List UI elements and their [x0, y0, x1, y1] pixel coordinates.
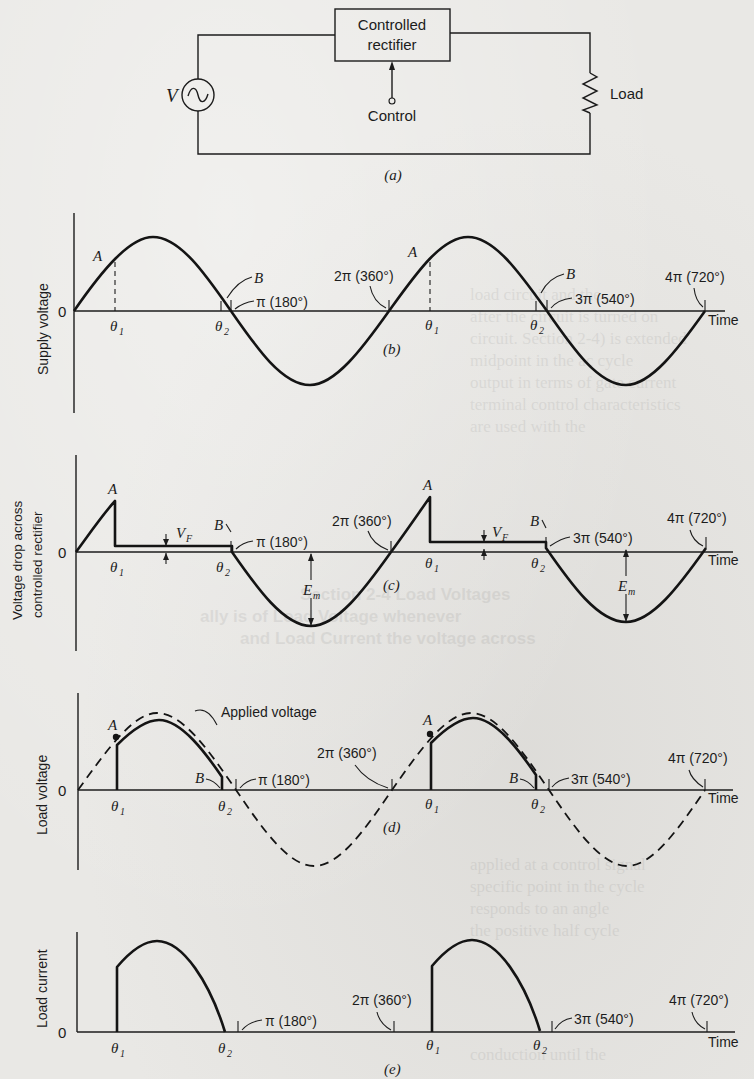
svg-text:B: B: [530, 513, 539, 529]
control-arrow-icon: [389, 61, 395, 104]
svg-text:θ: θ: [425, 796, 433, 812]
svg-text:3π (540°): 3π (540°): [575, 291, 635, 307]
svg-text:0: 0: [58, 1024, 66, 1041]
ac-source-icon: [182, 79, 214, 111]
y-axis-label: Load voltage: [34, 755, 50, 835]
svg-text:the positive half cycle: the positive half cycle: [470, 921, 620, 940]
svg-text:2: 2: [227, 806, 232, 817]
svg-text:output in terms of gate curren: output in terms of gate current: [470, 373, 677, 392]
svg-text:3π (540°): 3π (540°): [573, 530, 633, 546]
svg-text:π (180°): π (180°): [265, 1013, 317, 1029]
svg-text:E: E: [617, 578, 627, 594]
svg-text:Time: Time: [708, 790, 739, 806]
svg-text:A: A: [107, 717, 118, 733]
svg-text:π (180°): π (180°): [256, 534, 308, 550]
svg-text:0: 0: [58, 303, 66, 320]
svg-text:2: 2: [225, 567, 230, 578]
show-through-text: load circuit and the after the circuit i…: [200, 285, 687, 1064]
box-label-line2: rectifier: [367, 36, 416, 53]
svg-text:2π (360°): 2π (360°): [334, 268, 394, 284]
wire-top-left: [198, 35, 335, 79]
panel-e-load-current: 0 Load current θ 1 θ 2 θ 1 θ 2 π (180°) …: [34, 932, 739, 1078]
caption-a: (a): [384, 167, 402, 184]
svg-text:1: 1: [434, 563, 439, 574]
svg-text:2: 2: [540, 804, 545, 815]
svg-text:θ: θ: [216, 559, 224, 575]
svg-text:θ: θ: [531, 796, 539, 812]
svg-text:2π (360°): 2π (360°): [332, 513, 392, 529]
svg-text:B: B: [254, 270, 263, 286]
svg-text:0: 0: [58, 544, 66, 561]
svg-text:4π (720°): 4π (720°): [667, 510, 727, 526]
svg-text:A: A: [422, 712, 433, 728]
svg-text:specific point in the cycle: specific point in the cycle: [470, 877, 645, 896]
svg-text:θ: θ: [110, 318, 118, 334]
svg-text:(e): (e): [384, 1061, 401, 1078]
svg-text:responds to an angle: responds to an angle: [470, 899, 609, 918]
y-axis-label-line2: controlled rectifier: [30, 511, 45, 618]
svg-text:Time: Time: [708, 1034, 739, 1050]
svg-text:B: B: [214, 517, 223, 533]
svg-text:θ: θ: [218, 798, 226, 814]
svg-text:θ: θ: [218, 1040, 226, 1056]
svg-text:B: B: [195, 770, 204, 786]
svg-text:θ: θ: [425, 555, 433, 571]
load-label: Load: [610, 85, 643, 102]
svg-text:2: 2: [542, 1045, 547, 1056]
svg-text:and Load Current the voltage a: and Load Current the voltage across: [240, 629, 536, 648]
box-label-line1: Controlled: [358, 16, 426, 33]
svg-text:B: B: [566, 266, 575, 282]
svg-text:2: 2: [540, 563, 545, 574]
svg-text:m: m: [313, 590, 320, 601]
svg-text:θ: θ: [533, 1037, 541, 1053]
svg-text:θ: θ: [425, 317, 433, 333]
svg-text:3π (540°): 3π (540°): [574, 1011, 634, 1027]
svg-text:(b): (b): [383, 341, 401, 358]
wire-top-right: [450, 33, 590, 73]
svg-text:1: 1: [120, 1048, 125, 1059]
source-label: V: [166, 85, 180, 106]
svg-text:1: 1: [435, 1045, 440, 1056]
svg-text:2π (360°): 2π (360°): [352, 992, 412, 1008]
svg-text:1: 1: [119, 567, 124, 578]
svg-text:A: A: [107, 481, 118, 497]
svg-text:π (180°): π (180°): [258, 772, 310, 788]
applied-voltage-label: Applied voltage: [221, 704, 317, 720]
svg-text:1: 1: [434, 804, 439, 815]
svg-text:A: A: [92, 248, 103, 264]
svg-text:terminal control characteristi: terminal control characteristics: [470, 395, 681, 414]
circuit-diagram: V Controlled rectifier Control Load (a): [166, 9, 643, 184]
y-axis-label: Load current: [34, 949, 50, 1028]
svg-text:1: 1: [119, 326, 124, 337]
svg-text:ally is of Load Voltage whenev: ally is of Load Voltage whenever: [200, 607, 462, 626]
svg-text:θ: θ: [111, 798, 119, 814]
svg-text:4π (720°): 4π (720°): [665, 269, 725, 285]
load-resistor-icon: [583, 73, 597, 113]
y-axis-label: Supply voltage: [35, 283, 51, 375]
point-a-dot-2: [427, 731, 433, 737]
svg-text:2π (360°): 2π (360°): [317, 745, 377, 761]
svg-text:Time: Time: [708, 552, 739, 568]
svg-text:π (180°): π (180°): [256, 294, 308, 310]
point-a-dot: [113, 734, 119, 740]
svg-text:E: E: [302, 582, 312, 598]
load-current-wave: [117, 941, 225, 1032]
svg-text:circuit. Section 2-4) is exten: circuit. Section 2-4) is extended: [470, 329, 687, 348]
load-current-wave-2: [432, 940, 540, 1032]
svg-text:2: 2: [224, 326, 229, 337]
svg-text:2: 2: [227, 1048, 232, 1059]
svg-text:Time: Time: [708, 312, 739, 328]
svg-text:A: A: [407, 244, 418, 260]
svg-text:θ: θ: [530, 317, 538, 333]
svg-text:θ: θ: [215, 318, 223, 334]
control-label: Control: [368, 107, 416, 124]
svg-text:(d): (d): [383, 819, 401, 836]
y-axis-label-line1: Voltage drop across: [10, 500, 25, 620]
svg-text:F: F: [501, 532, 509, 543]
svg-text:4π (720°): 4π (720°): [668, 750, 728, 766]
svg-text:θ: θ: [111, 1040, 119, 1056]
svg-text:θ: θ: [110, 559, 118, 575]
svg-text:1: 1: [434, 325, 439, 336]
svg-text:F: F: [185, 533, 193, 544]
svg-text:m: m: [628, 586, 635, 597]
